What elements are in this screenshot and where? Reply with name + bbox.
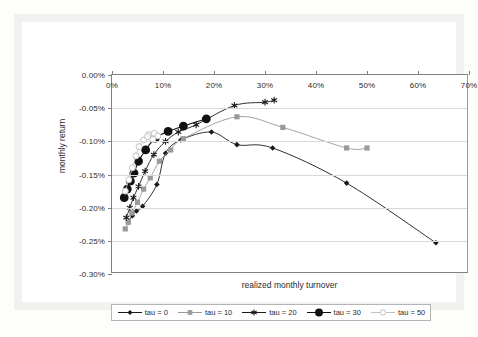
data-point-marker xyxy=(145,134,151,140)
legend-label: tau = 10 xyxy=(205,308,232,317)
data-point-marker xyxy=(202,114,211,123)
x-axis-tick-label: 10% xyxy=(155,81,171,90)
data-point-marker xyxy=(315,309,323,317)
x-axis-tick-label: 30% xyxy=(257,81,273,90)
legend-label: tau = 30 xyxy=(334,308,361,317)
data-point-marker xyxy=(123,226,128,231)
data-point-marker xyxy=(148,175,153,180)
data-point-marker xyxy=(136,144,142,150)
data-point-marker xyxy=(270,145,276,151)
grid-line xyxy=(112,108,467,109)
y-axis-tick xyxy=(108,75,112,76)
legend-marker-circle-big-icon xyxy=(306,307,332,318)
data-point-marker xyxy=(380,310,385,315)
x-axis-tick xyxy=(316,71,317,75)
y-axis-title: monthly return xyxy=(57,119,67,173)
data-point-marker xyxy=(141,146,150,155)
data-point-marker xyxy=(234,114,239,119)
y-axis-tick xyxy=(108,208,112,209)
y-axis-tick-label: -0.05% xyxy=(79,104,105,113)
grid-line xyxy=(112,141,467,142)
series-line xyxy=(125,116,367,228)
y-axis-tick xyxy=(108,241,112,242)
data-point-marker xyxy=(129,165,135,171)
legend-item-tau-30[interactable]: tau = 30 xyxy=(306,307,361,318)
x-axis-tick-label: 20% xyxy=(206,81,222,90)
x-axis-tick xyxy=(163,71,164,75)
x-axis-tick xyxy=(214,71,215,75)
x-axis-title: realized monthly turnover xyxy=(111,280,468,290)
series-line xyxy=(128,132,436,243)
y-axis-tick xyxy=(108,141,112,142)
data-point-marker xyxy=(168,147,173,152)
plot-area: 0.00%-0.05%-0.10%-0.15%-0.20%-0.25%-0.30… xyxy=(111,74,468,273)
chart-legend: tau = 0tau = 10tau = 20tau = 30tau = 50 xyxy=(111,304,431,321)
x-axis-tick-label: 60% xyxy=(410,81,426,90)
x-axis-tick-label: 50% xyxy=(359,81,375,90)
data-point-marker xyxy=(234,142,240,148)
y-axis-tick-label: -0.15% xyxy=(79,170,105,179)
legend-label: tau = 50 xyxy=(398,308,425,317)
y-axis-tick-label: -0.10% xyxy=(79,137,105,146)
series-tau-20 xyxy=(123,97,277,221)
y-axis-tick-label: -0.20% xyxy=(79,203,105,212)
legend-marker-star-icon xyxy=(241,307,267,318)
y-axis-tick xyxy=(108,274,112,275)
y-axis-tick-label: -0.25% xyxy=(79,236,105,245)
data-point-marker xyxy=(127,310,132,315)
legend-marker-open-circle-icon xyxy=(370,307,396,318)
data-point-marker xyxy=(120,193,129,202)
grid-line xyxy=(112,241,467,242)
x-axis-tick xyxy=(265,71,266,75)
data-point-marker xyxy=(175,129,181,136)
x-axis-tick xyxy=(469,71,470,75)
data-point-marker xyxy=(129,210,134,215)
chart-figure: monthly return 0.00%-0.05%-0.10%-0.15%-0… xyxy=(27,28,451,300)
data-point-marker xyxy=(154,182,160,188)
y-axis-tick xyxy=(108,175,112,176)
data-point-marker xyxy=(344,180,350,186)
legend-marker-square-icon xyxy=(177,307,203,318)
data-point-marker xyxy=(126,177,132,183)
x-axis-tick-label: 0% xyxy=(106,81,118,90)
data-point-marker xyxy=(209,129,215,135)
x-axis-tick-label: 70% xyxy=(461,81,477,90)
y-axis-tick-label: 0.00% xyxy=(82,71,105,80)
data-point-marker xyxy=(188,310,193,315)
data-point-marker xyxy=(179,122,188,131)
legend-label: tau = 0 xyxy=(145,308,168,317)
x-axis-tick xyxy=(112,71,113,75)
legend-item-tau-10[interactable]: tau = 10 xyxy=(177,307,232,318)
data-point-marker xyxy=(136,183,142,190)
data-point-marker xyxy=(280,125,285,130)
series-tau-0 xyxy=(126,129,439,245)
legend-item-tau-50[interactable]: tau = 50 xyxy=(370,307,425,318)
x-axis-tick xyxy=(418,71,419,75)
data-point-marker xyxy=(364,145,369,150)
data-point-marker xyxy=(135,200,140,205)
data-point-marker xyxy=(344,145,349,150)
data-point-marker xyxy=(164,127,173,136)
data-point-marker xyxy=(271,97,277,104)
grid-line xyxy=(112,175,467,176)
x-axis-tick-label: 40% xyxy=(308,81,324,90)
legend-item-tau-0[interactable]: tau = 0 xyxy=(117,307,168,318)
y-axis-tick xyxy=(108,108,112,109)
data-point-marker xyxy=(122,188,128,194)
legend-item-tau-20[interactable]: tau = 20 xyxy=(241,307,296,318)
legend-label: tau = 20 xyxy=(269,308,296,317)
y-axis-tick-label: -0.30% xyxy=(79,270,105,279)
data-point-marker xyxy=(141,186,146,191)
data-point-marker xyxy=(157,159,162,164)
data-point-marker xyxy=(133,153,139,159)
series-tau-10 xyxy=(123,114,370,231)
x-axis-tick xyxy=(367,71,368,75)
grid-line xyxy=(112,208,467,209)
legend-marker-diamond-icon xyxy=(117,307,143,318)
